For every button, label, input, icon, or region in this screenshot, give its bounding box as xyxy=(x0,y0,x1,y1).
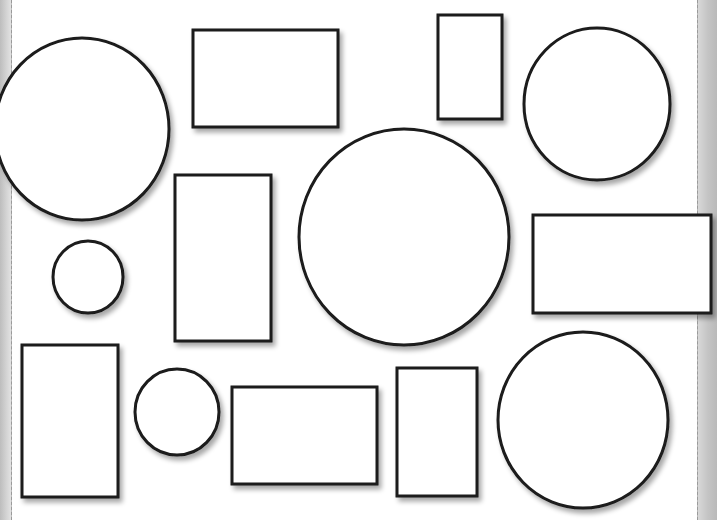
circle-large-top-left xyxy=(0,38,169,220)
worksheet-page xyxy=(0,0,717,520)
circle-top-right xyxy=(524,28,670,180)
rect-tall-bottom-left xyxy=(22,345,118,497)
circle-large-center xyxy=(299,129,509,345)
rect-wide-right xyxy=(533,215,711,313)
rect-tall-center-left xyxy=(175,175,271,341)
circle-bottom-right xyxy=(498,332,668,508)
circle-small-left xyxy=(53,241,123,313)
rect-wide-bottom-middle xyxy=(232,387,377,484)
rect-tall-top xyxy=(438,15,502,119)
rect-tall-bottom-middle xyxy=(397,368,477,496)
rect-wide-top-middle xyxy=(193,30,338,127)
circle-small-bottom xyxy=(135,369,219,455)
shapes-canvas xyxy=(0,0,717,520)
